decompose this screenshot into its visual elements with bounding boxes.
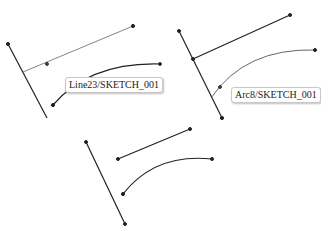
sketch-line-vertical[interactable] [179, 31, 222, 118]
sketch-canvas[interactable]: Line23/SKETCH_001 Arc8/SKETCH_001 [0, 0, 321, 238]
sketch-line[interactable] [118, 129, 190, 159]
tooltip-arc8: Arc8/SKETCH_001 [231, 87, 321, 103]
tooltip-line23: Line23/SKETCH_001 [65, 77, 163, 93]
panel-bottom [85, 128, 214, 226]
panel-top-right [178, 14, 317, 120]
sketch-line-vertical[interactable] [86, 142, 125, 224]
panel-top-left [6, 24, 161, 118]
sketch-arc[interactable] [123, 158, 212, 194]
sketch-line[interactable] [193, 15, 290, 59]
sketch-line-vertical[interactable] [8, 44, 47, 118]
sketch-line-23[interactable] [23, 26, 133, 72]
